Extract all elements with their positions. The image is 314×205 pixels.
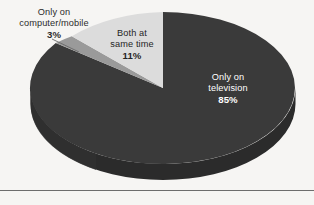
slice-label-computer-line2: computer/mobile xyxy=(2,18,106,29)
slice-value-television: 85% xyxy=(186,94,270,105)
slice-label-both-same-time: Both at same time 11% xyxy=(98,28,166,61)
slice-label-television-line1: Only on xyxy=(186,72,270,83)
slice-label-television-line2: television xyxy=(186,83,270,94)
slice-label-television: Only on television 85% xyxy=(186,72,270,105)
slice-value-computer: 3% xyxy=(2,29,106,40)
slice-label-computer-line1: Only on xyxy=(2,7,106,18)
slice-label-both-line1: Both at xyxy=(98,28,166,39)
slice-value-both: 11% xyxy=(98,50,166,61)
bottom-divider xyxy=(0,190,314,191)
slice-label-computer-mobile: Only on computer/mobile 3% xyxy=(2,7,106,40)
slice-label-both-line2: same time xyxy=(98,39,166,50)
pie-chart: Only on computer/mobile 3% Both at same … xyxy=(0,0,314,205)
